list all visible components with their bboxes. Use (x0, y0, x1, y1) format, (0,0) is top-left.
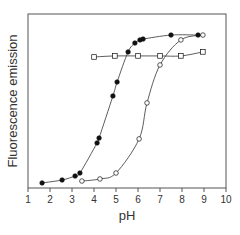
open-square-marker (201, 50, 206, 55)
ph-fluorescence-chart: 12345678910 pH Fluorescence emission (0, 0, 240, 235)
x-tick-label: 5 (113, 194, 119, 205)
filled-circle-marker (60, 178, 65, 183)
filled-circle-marker (111, 94, 116, 99)
open-square-marker (179, 54, 184, 59)
x-tick-label: 8 (179, 194, 185, 205)
filled-circle-marker (115, 80, 120, 85)
filled-circle-marker (95, 141, 100, 146)
open-square-marker (113, 54, 118, 59)
filled-circle-marker (73, 174, 78, 179)
filled-circle-marker (141, 37, 146, 42)
x-tick-label: 4 (91, 194, 97, 205)
open-squares-curve (94, 52, 203, 57)
open-circle-marker (98, 177, 103, 182)
x-tick-label: 2 (47, 194, 53, 205)
open-circle-marker (137, 137, 142, 142)
plot-border (28, 14, 226, 188)
open-circle-marker (145, 101, 150, 106)
open-circle-marker (158, 63, 163, 68)
x-tick-label: 9 (201, 194, 207, 205)
x-tick-label: 3 (69, 194, 75, 205)
filled-circle-marker (133, 41, 138, 46)
filled-circle-marker (126, 50, 131, 55)
filled-circle-marker (78, 171, 83, 176)
x-axis-label: pH (119, 208, 136, 223)
open-square-marker (158, 54, 163, 59)
open-circle-marker (179, 38, 184, 43)
plot-frame (28, 14, 226, 188)
open-circle-marker (80, 179, 85, 184)
filled-circle-marker (196, 33, 201, 38)
open-circle-marker (201, 33, 206, 38)
open-square-marker (136, 54, 141, 59)
x-tick-label: 10 (220, 194, 232, 205)
filled-circle-marker (97, 136, 102, 141)
x-tick-label: 7 (157, 194, 163, 205)
open-square-marker (92, 55, 97, 60)
open-circle-marker (114, 171, 119, 176)
x-tick-label: 1 (25, 194, 31, 205)
x-axis-ticks: 12345678910 (25, 188, 232, 205)
filled-circles-curve (42, 35, 198, 183)
y-axis-label: Fluorescence emission (5, 35, 20, 168)
x-tick-label: 6 (135, 194, 141, 205)
filled-circle-marker (169, 33, 174, 38)
filled-circle-marker (40, 181, 45, 186)
